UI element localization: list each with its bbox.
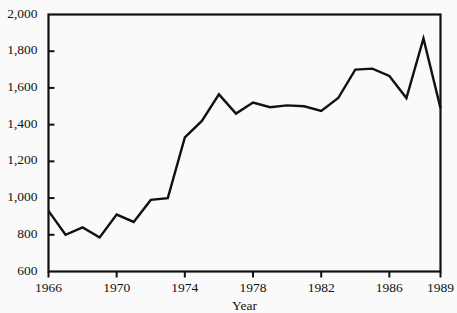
y-tick-label: 1,600: [7, 79, 38, 94]
y-tick-label: 1,000: [7, 189, 38, 204]
y-tick-label: 800: [17, 226, 38, 241]
y-tick-label: 1,800: [7, 42, 38, 57]
x-axis-title: Year: [232, 298, 257, 313]
y-tick-label: 1,200: [7, 152, 38, 167]
x-tick-label: 1974: [171, 280, 198, 295]
y-tick-label: 600: [17, 263, 38, 278]
y-tick-label: 2,000: [7, 6, 38, 21]
chart-background: [0, 0, 457, 313]
line-chart: 6008001,0001,2001,4001,6001,8002,000 196…: [0, 0, 457, 313]
x-tick-label: 1986: [376, 280, 403, 295]
x-tick-label: 1966: [35, 280, 62, 295]
x-tick-label: 1978: [240, 280, 267, 295]
x-tick-label: 1982: [308, 280, 335, 295]
x-tick-label: 1970: [103, 280, 130, 295]
x-tick-label: 1989: [427, 280, 454, 295]
y-tick-label: 1,400: [7, 116, 38, 131]
chart-container: 6008001,0001,2001,4001,6001,8002,000 196…: [0, 0, 457, 313]
